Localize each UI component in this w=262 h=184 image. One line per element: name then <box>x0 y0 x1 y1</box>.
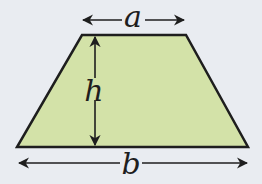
top-base-label: a <box>124 0 142 34</box>
trapezoid-diagram: a h b <box>0 0 262 184</box>
bottom-base-label: b <box>121 146 140 181</box>
trapezoid-shape <box>17 35 248 147</box>
height-label: h <box>84 73 103 108</box>
